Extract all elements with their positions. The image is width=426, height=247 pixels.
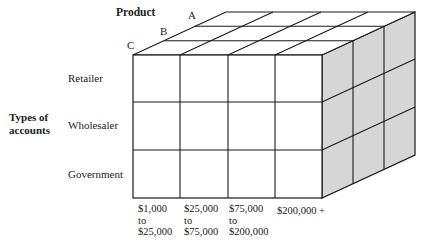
depth-label-b: B [160, 25, 167, 37]
column-label-1-line3: $25,000 [138, 226, 172, 238]
column-label-2-line2: to [184, 215, 218, 227]
column-label-1: $1,000 to $25,000 [138, 203, 172, 238]
column-label-3-line3: $200,000 [229, 226, 268, 238]
row-label-government: Government [68, 168, 123, 180]
product-axis-title: Product [116, 6, 155, 18]
depth-label-c: C [127, 39, 134, 51]
column-label-2-line1: $25,000 [184, 203, 218, 215]
column-label-1-line1: $1,000 [138, 203, 172, 215]
row-label-retailer: Retailer [68, 72, 103, 84]
column-label-3: $75,000 to $200,000 [229, 203, 268, 238]
accounts-axis-title-line2: accounts [9, 124, 50, 136]
column-label-4-line1: $200,000 + [277, 205, 325, 217]
row-label-wholesaler: Wholesaler [68, 119, 118, 131]
depth-label-a: A [188, 9, 196, 21]
column-label-3-line2: to [229, 215, 268, 227]
column-label-4: $200,000 + [277, 205, 325, 217]
accounts-axis-title-line1: Types of [9, 111, 48, 123]
column-label-3-line1: $75,000 [229, 203, 268, 215]
column-label-2-line3: $75,000 [184, 226, 218, 238]
column-label-2: $25,000 to $75,000 [184, 203, 218, 238]
column-label-1-line2: to [138, 215, 172, 227]
